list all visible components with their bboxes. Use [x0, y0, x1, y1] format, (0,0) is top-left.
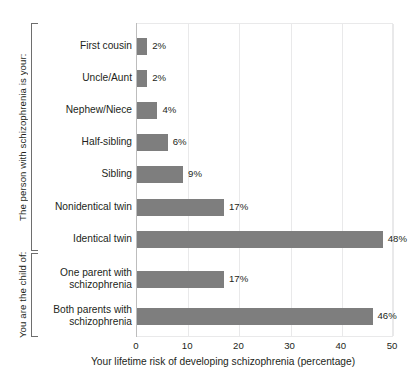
bar-value-label: 17%	[229, 273, 248, 284]
bar-value-label: 48%	[388, 233, 407, 244]
bar-value-label: 4%	[162, 104, 176, 115]
bar	[137, 271, 224, 288]
gridline	[393, 24, 394, 336]
bar	[137, 308, 373, 325]
x-axis-title-text: Your lifetime risk of developing schizop…	[91, 356, 355, 367]
bar-value-label: 9%	[188, 168, 202, 179]
gridline	[291, 24, 292, 336]
category-label: Half-sibling	[2, 136, 132, 148]
bar-value-label: 2%	[152, 72, 166, 83]
category-label: Identical twin	[2, 233, 132, 245]
bar-value-label: 17%	[229, 201, 248, 212]
bar	[137, 134, 168, 151]
gridline	[342, 24, 343, 336]
category-label: Both parents with schizophrenia	[2, 304, 132, 327]
x-axis-ticks: 01020304050	[0, 340, 414, 354]
category-label: Nonidentical twin	[2, 201, 132, 213]
gridline	[188, 24, 189, 336]
bar	[137, 70, 147, 87]
schizophrenia-risk-bar-chart: The person with schizophrenia is your: Y…	[0, 0, 414, 376]
bar	[137, 231, 383, 248]
bar	[137, 166, 183, 183]
x-tick-label: 50	[387, 340, 398, 351]
x-tick-label: 30	[284, 340, 295, 351]
x-tick-label: 20	[233, 340, 244, 351]
x-tick-label: 0	[133, 340, 138, 351]
bar	[137, 199, 224, 216]
category-label: First cousin	[2, 40, 132, 52]
x-tick-label: 10	[182, 340, 193, 351]
x-tick-label: 40	[335, 340, 346, 351]
category-label: Nephew/Niece	[2, 104, 132, 116]
bar-value-label: 6%	[173, 136, 187, 147]
gridline	[239, 24, 240, 336]
bar-value-label: 2%	[152, 40, 166, 51]
category-label: Uncle/Aunt	[2, 72, 132, 84]
category-label: One parent with schizophrenia	[2, 267, 132, 290]
bar	[137, 38, 147, 55]
bar-value-label: 46%	[378, 310, 397, 321]
bar	[137, 102, 157, 119]
x-axis-title: Your lifetime risk of developing schizop…	[0, 356, 414, 367]
category-label: Sibling	[2, 168, 132, 180]
